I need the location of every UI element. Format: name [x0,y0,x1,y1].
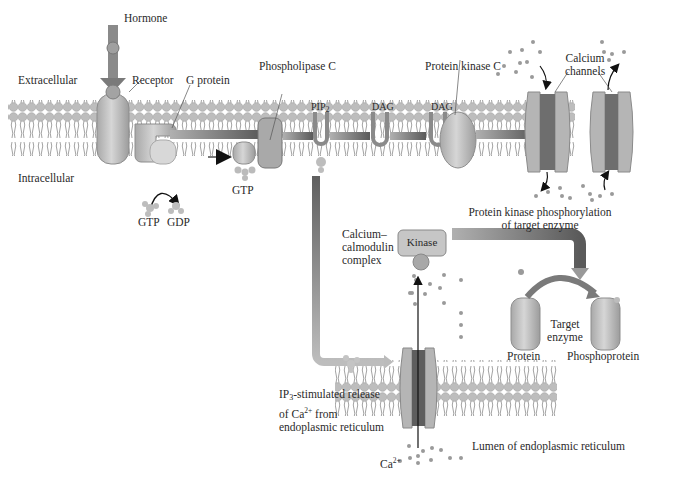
pip2-label: PIP2 [311,100,329,116]
phospholipase-c-label: Phospholipase C [259,60,336,73]
phosphoprotein-label: Phosphoprotein [567,350,639,363]
protein-kinase-c [440,112,476,168]
target-enzyme-protein [511,298,540,350]
ca2-label: Ca2+ [380,454,401,471]
gtp-label-1: GTP [138,216,160,229]
receptor-protein [97,85,129,164]
target-enzyme-label: Targetenzyme [540,318,590,344]
calcium-channels-label: Calciumchannels [555,52,615,78]
er-lumen-label: Lumen of endoplasmic reticulum [472,440,625,453]
hormone-label: Hormone [124,12,167,25]
calcium-ions [408,269,524,339]
gdp-label: GDP [167,216,190,229]
activated-g-protein [233,142,256,181]
calcium-channel-1 [525,92,570,172]
kinase-label: Kinase [398,236,446,249]
dag-label-2: DAG [431,100,453,113]
calcium-ions [398,444,463,465]
pk-phosphorylation-label: Protein kinase phosphorylationof target … [440,206,640,232]
gtp-molecule [142,201,159,217]
calcium-calmodulin-label: Calcium–calmodulincomplex [342,228,394,267]
protein-kinase-c-label: Protein kinase C [425,60,501,73]
plasma-membrane [8,100,575,156]
g-protein-label: G protein [186,74,230,87]
dag-label-1: DAG [372,100,394,113]
g-protein [135,124,176,164]
intracellular-label: Intracellular [18,172,74,185]
target-enzyme-phosphoprotein [591,298,620,350]
receptor-label: Receptor [132,74,174,87]
hormone-arrow [100,25,126,92]
gdp-molecule [168,202,184,214]
ip3-release-label: IP3-stimulated release of Ca2+ from endo… [279,388,384,434]
calcium-channel-2 [590,92,633,172]
extracellular-label: Extracellular [18,74,77,87]
gtp-label-2: GTP [232,184,254,197]
protein-label: Protein [507,350,540,363]
phospholipase-c [258,118,282,168]
